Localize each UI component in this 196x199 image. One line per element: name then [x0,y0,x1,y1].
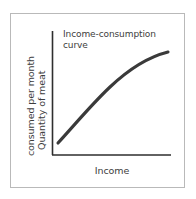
y-axis-title-line-1: Quantity of meat [36,71,47,150]
curve-annotation-label: Income-consumption curve [63,29,175,50]
figure-container: Income-consumption curve Quantity of mea… [0,0,196,199]
y-axis-title-line-2: consumed per month [25,56,36,156]
x-axis-title: Income [52,165,172,176]
income-consumption-curve [58,52,168,143]
y-axis-title: Quantity of meat consumed per month [21,30,41,150]
